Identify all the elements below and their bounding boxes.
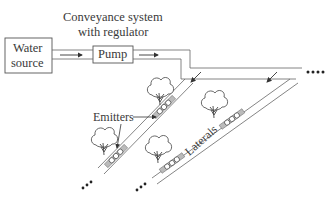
lateral-2 [152,79,298,184]
conveyance-pipe [52,50,302,79]
emitter-group [104,144,127,167]
water-source-label-line2: source [11,56,44,70]
lateral-arrow-icon [267,72,277,82]
water-source-label-line1: Water [13,41,43,55]
pump-label: Pump [98,47,127,61]
conveyance-label-line2: with regulator [78,25,148,39]
tree-icon [145,135,171,163]
irrigation-diagram [0,0,327,203]
emitter-group [219,109,245,130]
emitter-group [159,153,185,174]
emitters-label: Emitters [93,110,134,124]
tree-icon [91,127,117,155]
emitters-pointer-arrow [117,124,121,148]
lateral-arrow-icon [191,72,201,82]
emitter-group [152,95,175,118]
tree-icon [201,90,227,118]
conveyance-label-line1: Conveyance system [63,10,163,24]
